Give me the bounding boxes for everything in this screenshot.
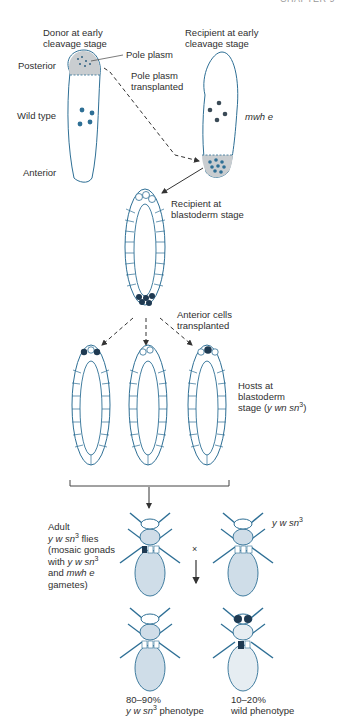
posterior-label: Posterior (18, 60, 56, 71)
result-right-pct: 10–20% (231, 694, 294, 705)
anterior-cells-line1: Anterior cells (177, 309, 232, 320)
recipient-egg (202, 52, 238, 177)
pole-plasm-label: Pole plasm (126, 49, 173, 60)
recipient-title: Recipient at early cleavage stage (185, 27, 258, 49)
recipient-blastoderm-label: Recipient at blastoderm stage (171, 198, 244, 220)
adult-line2-geno: y w sn (48, 533, 75, 544)
adult-line4-geno: y w sn (68, 556, 95, 567)
adult-line4: with y w sn3 (48, 556, 115, 568)
adult-line5-prefix: and (48, 567, 67, 578)
develop-arrow (162, 168, 203, 193)
result-left-pct: 80–90% (126, 694, 204, 705)
result-right: 10–20% wild phenotype (231, 694, 294, 716)
recipient-genotype: mwh e (245, 111, 273, 122)
wild-type-label: Wild type (17, 110, 56, 121)
adult-line2: y w sn3 flies (48, 533, 115, 545)
adult-label: Adult y w sn3 flies (mosaic gonads with … (48, 521, 115, 590)
fly-mate (213, 513, 273, 596)
recipient-blasto-line2: blastoderm stage (171, 209, 244, 220)
mate-genotype: y w sn3 (272, 517, 303, 528)
transplant-line2: transplanted (131, 81, 183, 92)
fly-offspring-wild (213, 608, 273, 691)
adult-line6: gametes) (48, 579, 115, 591)
hosts-line2: blastoderm (238, 391, 306, 402)
donor-title: Donor at early cleavage stage (43, 27, 107, 49)
fly-adult-mosaic (120, 513, 180, 596)
donor-title-line2: cleavage stage (43, 38, 107, 49)
adult-line5: and mwh e (48, 567, 115, 579)
anterior-cells-label: Anterior cells transplanted (177, 309, 232, 331)
host-blastoderm-1 (72, 345, 110, 465)
result-right-label: wild phenotype (231, 705, 294, 716)
adult-line4-sup: 3 (94, 555, 98, 562)
hosts-line1: Hosts at (238, 380, 306, 391)
cross-symbol: × (192, 544, 197, 555)
hosts-genotype: y wn sn (267, 402, 299, 413)
host-blastoderm-2 (129, 345, 167, 465)
result-left-geno: y w sn (126, 705, 153, 716)
hosts-label: Hosts at blastoderm stage (y wn sn3) (238, 380, 306, 413)
hosts-line3-prefix: stage ( (238, 402, 267, 413)
adult-line4-prefix: with (48, 556, 68, 567)
adult-line1: Adult (48, 521, 115, 533)
mate-geno: y w sn (272, 517, 299, 528)
mate-sup: 3 (299, 516, 303, 523)
recipient-title-line1: Recipient at early (185, 27, 258, 38)
host-blastoderm-3 (188, 345, 226, 465)
adult-line3: (mosaic gonads (48, 544, 115, 556)
donor-egg (68, 50, 123, 182)
bracket (70, 480, 229, 486)
recipient-blastoderm (125, 189, 165, 306)
recipient-blasto-line1: Recipient at (171, 198, 244, 209)
adult-line2-suffix: flies (79, 533, 99, 544)
anterior-label: Anterior (23, 167, 56, 178)
adult-line5-geno: mwh e (67, 567, 95, 578)
transplant-line1: Pole plasm (131, 70, 183, 81)
anterior-cells-line2: transplanted (177, 320, 232, 331)
result-left-phenotype: y w sn3 phenotype (126, 705, 204, 716)
hosts-suffix: ) (303, 402, 306, 413)
result-left: 80–90% y w sn3 phenotype (126, 694, 204, 716)
recipient-title-line2: cleavage stage (185, 38, 258, 49)
transplant-label: Pole plasm transplanted (131, 70, 183, 92)
fly-offspring-mutant (120, 608, 180, 691)
result-left-suffix: phenotype (157, 705, 204, 716)
donor-title-line1: Donor at early (43, 27, 107, 38)
hosts-line3: stage (y wn sn3) (238, 402, 306, 413)
